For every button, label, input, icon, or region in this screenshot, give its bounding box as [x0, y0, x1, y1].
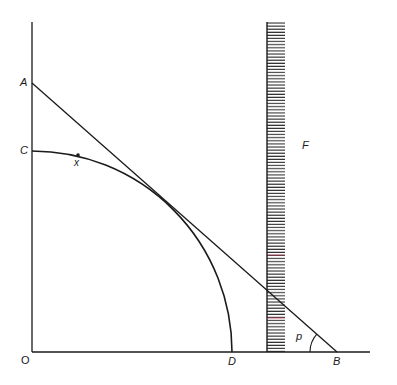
- label-p: p: [296, 331, 302, 342]
- line-ab: [32, 83, 337, 352]
- label-f: F: [302, 140, 309, 151]
- curve-cd: [32, 151, 232, 352]
- label-x: x: [74, 158, 79, 168]
- label-d: D: [228, 356, 236, 367]
- label-o: O: [21, 355, 30, 366]
- label-b: B: [333, 356, 340, 367]
- hatched-bar-f: [267, 22, 285, 352]
- label-c: C: [20, 145, 28, 156]
- angle-p-arc: [310, 334, 317, 352]
- diagram-canvas: [0, 0, 397, 385]
- label-a: A: [20, 77, 27, 88]
